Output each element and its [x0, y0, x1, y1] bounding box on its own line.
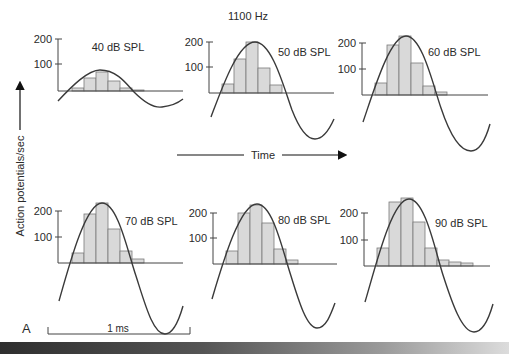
time-label: Time	[251, 149, 275, 161]
panel-label: 60 dB SPL	[428, 46, 481, 58]
panel-80db: 200 100 80 dB SPL	[189, 204, 337, 328]
tick-label-100: 100	[34, 58, 52, 70]
figure-canvas: 1100 Hz Action potentials/sec Time 200 1…	[0, 0, 509, 354]
y-axis-label: Action potentials/sec	[14, 135, 26, 236]
panel-label: 90 dB SPL	[435, 217, 488, 229]
panel-label: 70 dB SPL	[125, 215, 178, 227]
panel-label: 80 dB SPL	[278, 214, 331, 226]
panel-40db: 200 100 40 dB SPL	[34, 33, 183, 107]
tick-label-100: 100	[338, 63, 356, 75]
panel-50db: 200 100 50 dB SPL	[185, 36, 334, 139]
histogram-bars	[72, 203, 144, 263]
tick-label-200: 200	[189, 207, 207, 219]
y-axis-label-group: Action potentials/sec	[14, 83, 26, 236]
tick-label-100: 100	[185, 61, 203, 73]
histogram-bars	[72, 72, 144, 91]
tick-label-100: 100	[34, 231, 52, 243]
scale-bar-label: 1 ms	[107, 323, 129, 334]
tick-label-100: 100	[340, 234, 358, 246]
time-arrow-group: Time	[177, 149, 345, 161]
panel-label: 40 dB SPL	[92, 41, 145, 53]
tick-label-200: 200	[338, 37, 356, 49]
tick-label-200: 200	[185, 36, 203, 48]
histogram-bars	[375, 36, 447, 95]
histogram-bars	[377, 198, 473, 266]
tick-label-200: 200	[34, 205, 52, 217]
bottom-edge-bar	[0, 342, 509, 354]
frequency-label: 1100 Hz	[228, 10, 268, 22]
tick-label-200: 200	[340, 207, 358, 219]
panel-label: 50 dB SPL	[278, 46, 331, 58]
panel-90db: 200 100 90 dB SPL	[340, 198, 493, 332]
tick-label-200: 200	[34, 33, 52, 45]
panel-70db: 200 100 70 dB SPL	[34, 203, 183, 334]
tick-label-100: 100	[189, 232, 207, 244]
panel-60db: 200 100 60 dB SPL	[338, 36, 490, 151]
panel-letter: A	[22, 321, 31, 336]
